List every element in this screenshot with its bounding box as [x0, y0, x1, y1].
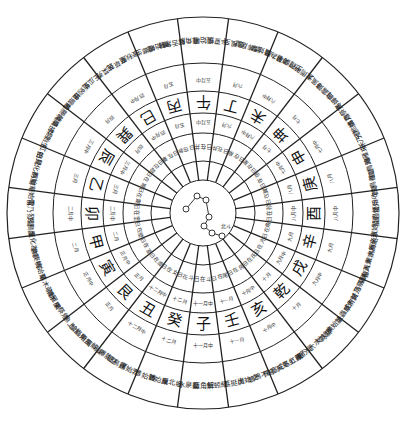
- star-icon: [183, 206, 189, 212]
- term-label: 五月中: [196, 119, 211, 126]
- star-icon: [194, 193, 200, 199]
- direction-label: 酉: [305, 206, 323, 221]
- phenology-text: 始電: [26, 192, 36, 207]
- month-label: 五月中: [196, 77, 211, 84]
- star-icon: [209, 230, 215, 236]
- phenology-wheel: 子十一月中十一月中日在斗蚯蚓結麋角解水泉動癸十二月十二月日在斗雁北鄉鵲始巢雉始雊…: [0, 0, 407, 431]
- sun-position-label: 日在軫: [265, 204, 273, 222]
- wheel-rings: [7, 17, 399, 409]
- star-icon: [201, 223, 207, 229]
- star-icon: [219, 233, 225, 239]
- term-label: 十一月中: [193, 300, 213, 307]
- outer-ring: [7, 17, 399, 409]
- month-label: 十一月中: [193, 342, 213, 349]
- sun-position-label: 日在奎: [133, 204, 141, 222]
- direction-label: 午: [196, 93, 211, 111]
- direction-label: 子: [196, 315, 211, 333]
- month-label: 二月中: [67, 206, 74, 221]
- direction-label: 卯: [83, 206, 101, 221]
- sun-position-label: 日在井: [194, 143, 212, 151]
- sun-position-label: 日在斗: [194, 275, 212, 283]
- star-icon: [203, 197, 209, 203]
- term-label: 二月中: [109, 206, 116, 221]
- dipper-label: 北斗: [221, 223, 231, 230]
- month-label: 八月中: [332, 206, 339, 221]
- star-icon: [206, 214, 212, 220]
- term-label: 八月中: [290, 206, 297, 221]
